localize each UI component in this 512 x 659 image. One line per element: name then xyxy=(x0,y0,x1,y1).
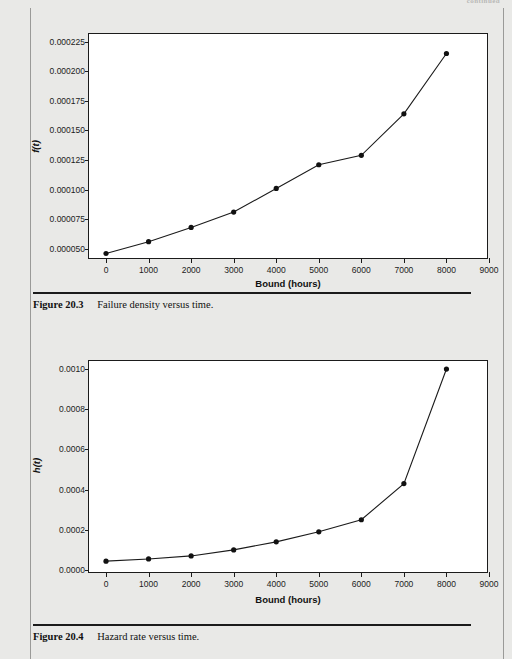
chart2-y-axis-label: h(t) xyxy=(31,458,42,473)
x-tick-mark xyxy=(489,258,490,263)
data-point xyxy=(274,186,279,191)
y-tick-label: 0.000075 xyxy=(50,214,85,224)
chart1-x-axis-label: Bound (hours) xyxy=(88,278,488,289)
x-tick-label: 4000 xyxy=(267,265,286,275)
x-tick-label: 2000 xyxy=(182,579,201,589)
caption-rule xyxy=(33,624,471,626)
y-tick-mark xyxy=(85,190,90,191)
y-tick-mark xyxy=(85,490,90,491)
x-tick-mark xyxy=(106,572,107,577)
data-point xyxy=(146,239,151,244)
chart2-x-axis-label: Bound (hours) xyxy=(88,594,488,605)
x-tick-mark xyxy=(191,572,192,577)
x-tick-label: 3000 xyxy=(224,579,243,589)
x-tick-mark xyxy=(319,572,320,577)
y-tick-label: 0.000150 xyxy=(50,125,85,135)
x-tick-mark xyxy=(234,258,235,263)
chart1-series-line xyxy=(89,34,489,260)
y-tick-label: 0.0010 xyxy=(59,364,85,374)
figure-20-4: h(t) Bound (hours) 0.00000.00020.00040.0… xyxy=(33,345,501,613)
y-tick-mark xyxy=(85,449,90,450)
y-tick-mark xyxy=(85,409,90,410)
x-tick-label: 2000 xyxy=(182,265,201,275)
x-tick-label: 0 xyxy=(104,265,109,275)
y-tick-label: 0.0006 xyxy=(59,444,85,454)
data-point xyxy=(401,481,406,486)
y-tick-mark xyxy=(85,249,90,250)
x-tick-mark xyxy=(361,258,362,263)
x-tick-mark xyxy=(319,258,320,263)
x-tick-mark xyxy=(276,572,277,577)
x-tick-mark xyxy=(404,572,405,577)
x-tick-mark xyxy=(191,258,192,263)
y-tick-mark xyxy=(85,42,90,43)
data-point xyxy=(444,51,449,56)
x-tick-label: 1000 xyxy=(139,579,158,589)
y-tick-mark xyxy=(85,219,90,220)
data-point xyxy=(231,547,236,552)
y-tick-label: 0.000100 xyxy=(50,185,85,195)
y-tick-mark xyxy=(85,160,90,161)
x-tick-label: 5000 xyxy=(309,265,328,275)
data-point xyxy=(401,111,406,116)
chart1-plot-area: 0.0000500.0000750.0001000.0001250.000150… xyxy=(88,33,488,259)
y-tick-label: 0.000050 xyxy=(50,244,85,254)
x-tick-label: 6000 xyxy=(352,265,371,275)
data-point xyxy=(444,366,449,371)
y-tick-label: 0.0008 xyxy=(59,404,85,414)
x-tick-label: 3000 xyxy=(224,265,243,275)
figure-number: Figure 20.4 xyxy=(33,631,84,642)
y-tick-mark xyxy=(85,71,90,72)
data-point xyxy=(189,225,194,230)
data-point xyxy=(146,556,151,561)
x-tick-mark xyxy=(149,258,150,263)
y-tick-mark xyxy=(85,369,90,370)
y-tick-label: 0.0002 xyxy=(59,525,85,535)
x-tick-mark xyxy=(489,572,490,577)
page-left-rule xyxy=(30,8,31,659)
caption-rule xyxy=(33,292,471,294)
y-tick-mark xyxy=(85,570,90,571)
data-point xyxy=(103,559,108,564)
page-right-rule xyxy=(503,8,504,659)
y-tick-mark xyxy=(85,130,90,131)
x-tick-mark xyxy=(106,258,107,263)
figure-20-3: f(t) Bound (hours) 0.0000500.0000750.000… xyxy=(33,16,501,288)
data-point xyxy=(316,529,321,534)
data-point xyxy=(359,153,364,158)
document-page: continued f(t) Bound (hours) 0.0000500.0… xyxy=(0,0,512,659)
chart1-y-axis-label: f(t) xyxy=(30,140,41,153)
x-tick-label: 0 xyxy=(104,579,109,589)
figure-title: Failure density versus time. xyxy=(97,299,213,310)
figure-20-3-caption: Figure 20.3 Failure density versus time. xyxy=(33,292,501,310)
data-point xyxy=(231,209,236,214)
figure-20-4-caption: Figure 20.4 Hazard rate versus time. xyxy=(33,624,501,642)
y-tick-label: 0.0004 xyxy=(59,485,85,495)
x-tick-label: 9000 xyxy=(480,579,499,589)
y-tick-mark xyxy=(85,530,90,531)
continued-note: continued xyxy=(467,0,500,5)
y-tick-label: 0.000225 xyxy=(50,37,85,47)
x-tick-mark xyxy=(446,258,447,263)
data-point xyxy=(359,517,364,522)
x-tick-mark xyxy=(404,258,405,263)
series-polyline xyxy=(106,369,446,561)
y-tick-label: 0.000125 xyxy=(50,155,85,165)
x-tick-mark xyxy=(446,572,447,577)
x-tick-mark xyxy=(276,258,277,263)
y-tick-label: 0.0000 xyxy=(59,565,85,575)
x-tick-label: 7000 xyxy=(394,579,413,589)
x-tick-label: 8000 xyxy=(437,265,456,275)
x-tick-label: 8000 xyxy=(437,579,456,589)
x-tick-label: 4000 xyxy=(267,579,286,589)
data-point xyxy=(274,539,279,544)
x-tick-label: 1000 xyxy=(139,265,158,275)
series-polyline xyxy=(106,54,446,254)
figure-title: Hazard rate versus time. xyxy=(97,631,199,642)
x-tick-mark xyxy=(234,572,235,577)
hazard-rate-chart: h(t) Bound (hours) 0.00000.00020.00040.0… xyxy=(33,345,501,613)
data-point xyxy=(316,162,321,167)
y-tick-label: 0.000200 xyxy=(50,66,85,76)
x-tick-label: 6000 xyxy=(352,579,371,589)
data-point xyxy=(189,553,194,558)
